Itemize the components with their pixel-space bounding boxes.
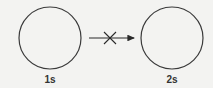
label-1s: 1s	[44, 75, 55, 85]
label-2s: 2s	[166, 75, 177, 85]
orbital-1s-circle	[19, 7, 81, 69]
orbital-transition-diagram: 1s 2s	[0, 0, 213, 88]
orbital-2s-circle	[141, 7, 203, 69]
diagram-canvas	[0, 0, 213, 88]
